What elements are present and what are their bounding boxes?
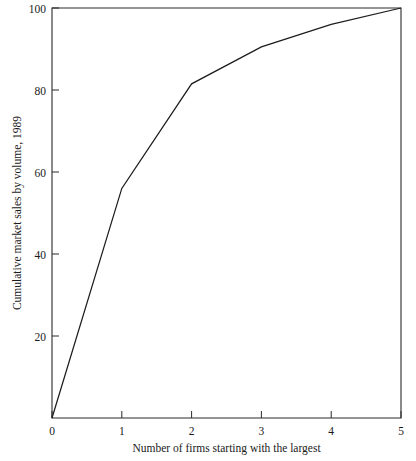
y-axis-tick-labels: 100 80 60 40 20 (29, 3, 47, 343)
x-tick-label-3: 3 (259, 425, 265, 437)
x-axis-tick-labels: 0 1 2 3 4 5 (49, 425, 404, 437)
x-tick-label-1: 1 (119, 425, 125, 437)
chart-page: 100 80 60 40 20 0 1 2 3 4 5 Number of fi… (0, 0, 416, 461)
y-tick-label-40: 40 (35, 249, 47, 261)
concentration-curve-chart: 100 80 60 40 20 0 1 2 3 4 5 Number of fi… (0, 0, 416, 461)
y-axis-title: Cumulative market sales by volume, 1989 (11, 116, 24, 310)
x-tick-label-2: 2 (189, 425, 195, 437)
x-tick-label-4: 4 (328, 425, 334, 437)
y-tick-label-80: 80 (35, 85, 47, 97)
x-axis-title: Number of firms starting with the larges… (132, 442, 321, 455)
plot-area-background (52, 8, 401, 418)
x-tick-label-0: 0 (49, 425, 55, 437)
y-tick-label-100: 100 (29, 3, 47, 15)
y-tick-label-20: 20 (35, 331, 47, 343)
y-tick-label-60: 60 (35, 167, 47, 179)
x-tick-label-5: 5 (398, 425, 404, 437)
